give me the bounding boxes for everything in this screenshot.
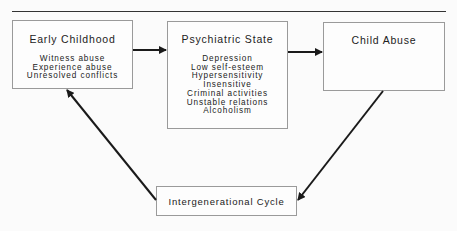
arrow-cycle-to-early	[67, 90, 156, 200]
arrows-layer	[0, 0, 457, 231]
arrow-child-abuse-to-cycle	[298, 91, 383, 200]
